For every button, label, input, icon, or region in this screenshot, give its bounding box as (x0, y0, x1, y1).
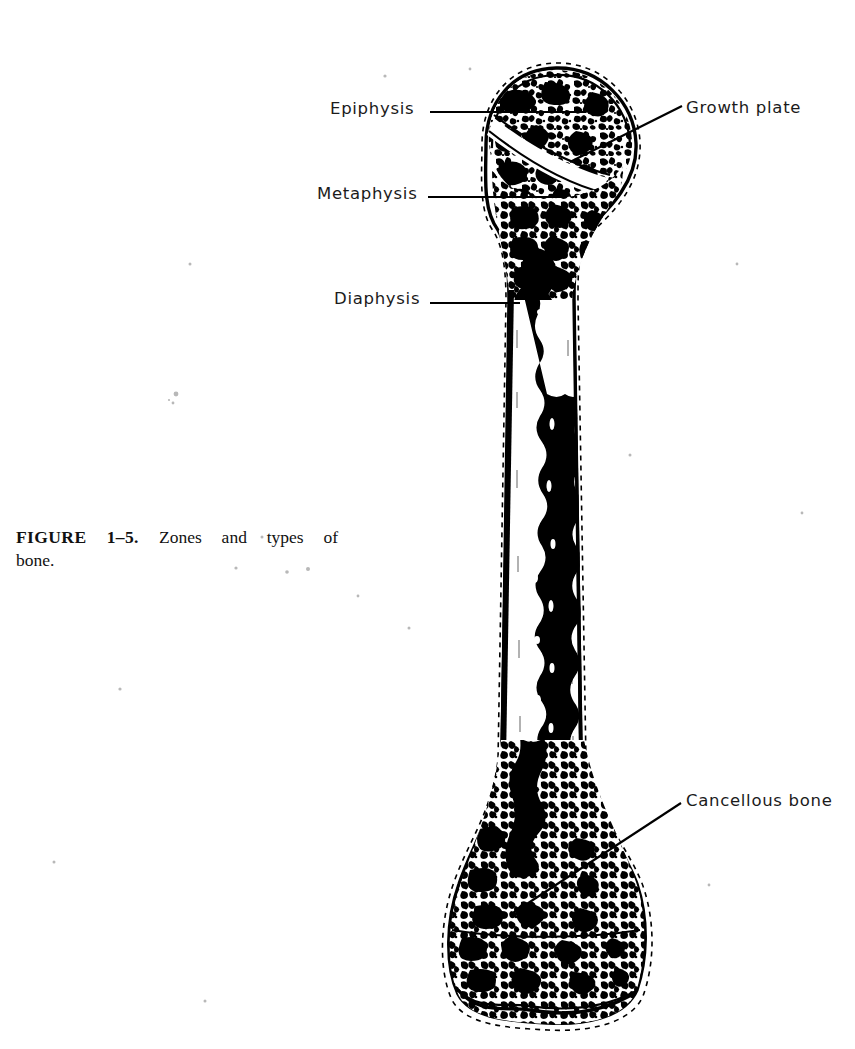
label-metaphysis: Metaphysis (317, 186, 417, 203)
leader-cancellous (513, 803, 681, 913)
growth-plate-band (487, 115, 610, 196)
leader-lines (428, 106, 682, 913)
figure-number: FIGURE 1–5. (16, 527, 159, 547)
proximal-metaphysis-cancellous (480, 160, 640, 316)
leader-growth-plate (570, 106, 682, 162)
caption-text-line-1: Zones and types of (159, 527, 338, 547)
bone-outline (449, 68, 646, 1023)
distal-epiphysis-cancellous (440, 730, 660, 1030)
periosteum-outline (442, 63, 652, 1030)
proximal-epiphysis-cancellous (470, 55, 660, 225)
label-diaphysis: Diaphysis (334, 291, 420, 308)
caption-line-2: bone. (16, 549, 338, 572)
bone-illustration (0, 0, 855, 1049)
figure-caption: FIGURE 1–5. Zones and types of bone. (16, 526, 338, 572)
distal-condyle-outline (458, 990, 636, 1013)
label-growth-plate: Growth plate (686, 100, 801, 117)
label-cancellous-bone: Cancellous bone (686, 793, 833, 810)
label-epiphysis: Epiphysis (330, 101, 414, 118)
figure-root: Epiphysis Metaphysis Diaphysis Growth pl… (0, 0, 855, 1049)
caption-line-1: FIGURE 1–5. Zones and types of (16, 526, 338, 549)
diaphysis (499, 290, 586, 804)
